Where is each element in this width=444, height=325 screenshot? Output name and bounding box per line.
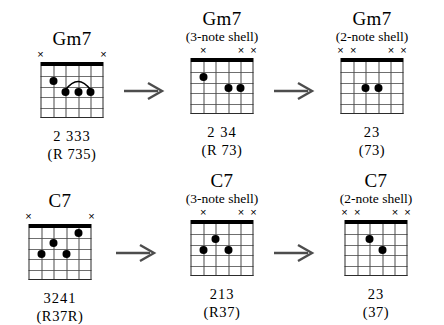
muted-string-icon: ×: [399, 45, 408, 56]
fret-line: [345, 266, 408, 267]
fretboard-grid: [191, 220, 254, 276]
grid-border: [191, 275, 254, 276]
grid-border: [29, 279, 92, 280]
fret-line: [345, 245, 408, 246]
grid-border: [191, 62, 192, 115]
finger-dot: [74, 88, 82, 96]
chord-title: Gm7: [8, 28, 136, 49]
fretboard-diagram: ××××: [308, 45, 436, 123]
chord-subtitle: (2-note shell): [312, 191, 440, 207]
fret-line: [29, 238, 92, 239]
chord-title: C7: [312, 170, 440, 191]
string-marker-row: ×××: [191, 207, 254, 220]
fret-line: [191, 93, 254, 94]
fretboard-diagram: ××: [8, 49, 136, 127]
fret-line: [191, 104, 254, 105]
muted-string-icon: ×: [336, 45, 345, 56]
fretboard-grid: [345, 220, 408, 276]
fret-line: [341, 104, 404, 105]
fret-line: [41, 87, 104, 88]
chord-subtitle: (3-note shell): [158, 191, 286, 207]
muted-string-icon: ×: [349, 45, 358, 56]
fretboard-diagram: ×××: [158, 207, 286, 285]
interval-spelling: (73): [308, 141, 436, 159]
chord-title: C7: [0, 190, 124, 211]
muted-string-icon: ×: [386, 45, 395, 56]
fret-line: [29, 259, 92, 260]
string-line: [353, 62, 354, 115]
interval-spelling: (R37): [158, 303, 286, 321]
interval-spelling: (R37R): [0, 307, 124, 325]
string-line: [216, 62, 217, 115]
grid-border: [191, 224, 192, 277]
fret-line: [29, 270, 92, 271]
fretboard-diagram: ×××: [158, 45, 286, 123]
string-line: [241, 224, 242, 277]
fret-line: [191, 234, 254, 235]
fingering-numbers: 23: [312, 285, 440, 303]
finger-dot: [378, 246, 386, 254]
grid-border: [407, 224, 408, 277]
chord-subtitle: (2-note shell): [308, 29, 436, 45]
string-marker-row: ××××: [341, 45, 404, 58]
fret-line: [41, 108, 104, 109]
muted-string-icon: ×: [249, 45, 258, 56]
fingering-numbers: 213: [158, 285, 286, 303]
chord-title: Gm7: [308, 8, 436, 29]
grid-border: [29, 228, 30, 281]
finger-dot: [62, 88, 70, 96]
grid-border: [253, 62, 254, 115]
finger-dot: [224, 84, 232, 92]
interval-spelling: (37): [312, 303, 440, 321]
finger-dot: [37, 250, 45, 258]
muted-string-icon: ×: [99, 49, 108, 60]
string-line: [203, 62, 204, 115]
string-line: [216, 224, 217, 277]
muted-string-icon: ×: [236, 207, 245, 218]
chord-title: Gm7: [158, 8, 286, 29]
fingering-numbers: 3241: [0, 289, 124, 307]
fretboard-diagram: ××××: [312, 207, 440, 285]
fretboard-grid: [341, 58, 404, 114]
finger-dot: [199, 73, 207, 81]
grid-border: [41, 66, 42, 119]
string-marker-row: ×××: [191, 45, 254, 58]
transform-arrow-icon: [114, 242, 158, 264]
chord-card-gm7-2note: Gm7 (2-note shell) ×××× 23 (73): [308, 8, 436, 159]
string-line: [357, 224, 358, 277]
chord-card-c7-full: C7 ×× 3241 (R37R): [0, 190, 124, 325]
muted-string-icon: ×: [199, 207, 208, 218]
grid-border: [91, 228, 92, 281]
fret-line: [341, 83, 404, 84]
string-line: [395, 224, 396, 277]
muted-string-icon: ×: [390, 207, 399, 218]
finger-dot: [224, 246, 232, 254]
fingering-numbers: 2 34: [158, 123, 286, 141]
string-marker-row: ××: [29, 211, 92, 224]
grid-border: [341, 113, 404, 114]
muted-string-icon: ×: [199, 45, 208, 56]
fret-grid: [345, 224, 408, 277]
transform-arrow-icon: [272, 242, 316, 264]
string-marker-row: ××: [41, 49, 104, 62]
fret-line: [29, 249, 92, 250]
fret-grid: [341, 62, 404, 115]
string-marker-row: ××××: [345, 207, 408, 220]
muted-string-icon: ×: [340, 207, 349, 218]
muted-string-icon: ×: [87, 211, 96, 222]
string-line: [54, 228, 55, 281]
fingering-numbers: 2 333: [8, 127, 136, 145]
muted-string-icon: ×: [353, 207, 362, 218]
fingering-numbers: 23: [308, 123, 436, 141]
muted-string-icon: ×: [36, 49, 45, 60]
chord-subtitle: (3-note shell): [158, 29, 286, 45]
chord-title: C7: [158, 170, 286, 191]
string-line: [370, 224, 371, 277]
interval-spelling: (R 73): [158, 141, 286, 159]
muted-string-icon: ×: [24, 211, 33, 222]
grid-border: [253, 224, 254, 277]
fretboard-grid: [191, 58, 254, 114]
fret-line: [341, 93, 404, 94]
grid-border: [403, 62, 404, 115]
